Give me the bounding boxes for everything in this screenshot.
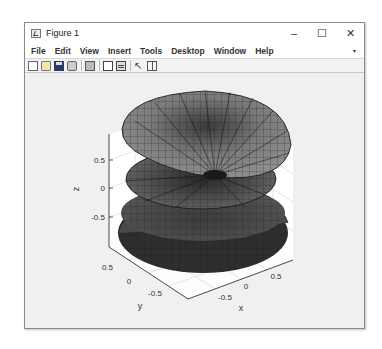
menu-help[interactable]: Help [254,46,274,56]
menu-desktop[interactable]: Desktop [170,46,206,56]
zoom-figure-icon[interactable] [85,61,95,71]
menu-insert[interactable]: Insert [107,46,132,56]
surface-plot[interactable] [118,91,291,273]
z-tick-0: 0 [101,184,106,193]
figure-canvas[interactable]: 0.5 0 -0.5 z 0.5 0 -0.5 y -0.5 0 0.5 x [25,73,364,328]
y-tick-neg0.5: -0.5 [148,289,162,298]
new-figure-icon[interactable] [28,61,38,71]
menu-view[interactable]: View [79,46,100,56]
window-title: Figure 1 [46,28,79,38]
toolbar-separator [81,60,82,71]
print-icon[interactable] [67,61,77,71]
figure-toolbar: ↖ [25,58,364,73]
maximize-button[interactable]: ☐ [308,23,336,43]
insert-colorbar-icon[interactable] [103,61,113,71]
toolbar-separator [130,60,131,71]
x-tick-0: 0 [244,282,249,291]
x-tick-0.5: 0.5 [270,272,282,281]
y-tick-0.5: 0.5 [102,263,114,272]
menu-file[interactable]: File [30,46,47,56]
y-axis-label: y [138,301,143,311]
property-inspector-icon[interactable] [147,61,157,71]
insert-legend-icon[interactable] [116,61,126,71]
z-axis: 0.5 0 -0.5 z [71,156,113,222]
matlab-figure-icon [31,29,41,38]
edit-plot-pointer-icon[interactable]: ↖ [134,61,144,71]
z-tick-0.5: 0.5 [94,156,106,165]
save-icon[interactable] [54,61,64,71]
menu-tools[interactable]: Tools [139,46,163,56]
z-axis-label: z [71,186,81,191]
open-file-icon[interactable] [41,61,51,71]
axes-3d[interactable]: 0.5 0 -0.5 z 0.5 0 -0.5 y -0.5 0 0.5 x [25,73,364,329]
menu-window[interactable]: Window [213,46,248,56]
y-tick-0: 0 [127,277,132,286]
title-bar[interactable]: Figure 1 – ☐ ✕ [25,23,364,43]
toolbar-separator [99,60,100,71]
toolbar-toggle-arrow-icon[interactable]: ▾ [353,47,356,54]
x-axis-label: x [239,303,244,313]
figure-window: Figure 1 – ☐ ✕ File Edit View Insert Too… [24,22,365,329]
menu-edit[interactable]: Edit [54,46,72,56]
close-button[interactable]: ✕ [336,23,364,43]
menu-bar: File Edit View Insert Tools Desktop Wind… [25,43,364,58]
x-tick-neg0.5: -0.5 [218,293,232,302]
z-tick-neg0.5: -0.5 [91,213,105,222]
minimize-button[interactable]: – [280,23,308,43]
